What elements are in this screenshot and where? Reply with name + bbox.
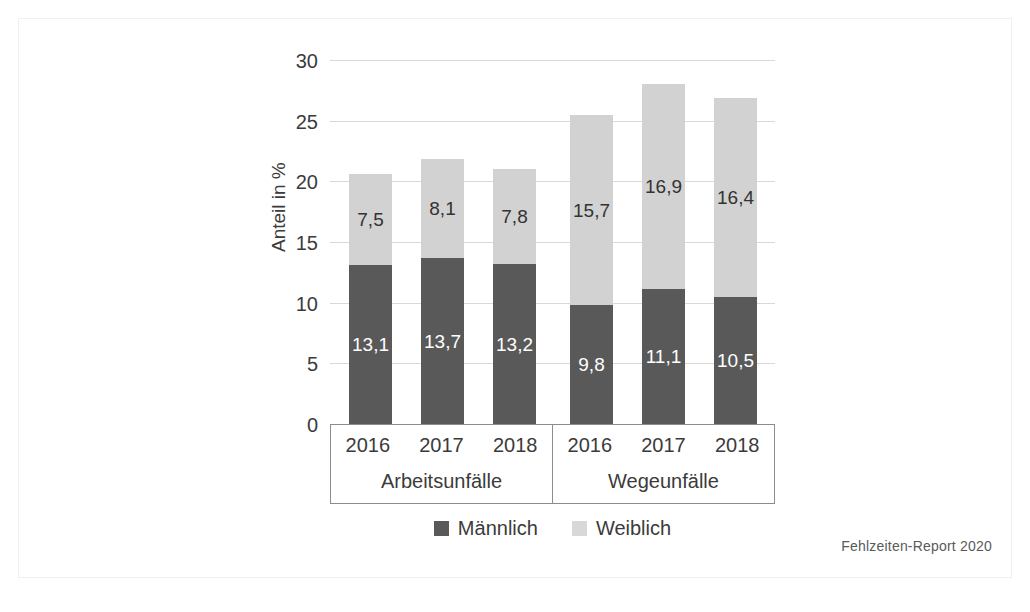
legend-item-weiblich[interactable]: Weiblich	[572, 518, 671, 538]
legend-label: Männlich	[458, 518, 538, 538]
x-tick-label-2018: 2018	[478, 429, 552, 463]
source-note: Fehlzeiten-Report 2020	[841, 538, 992, 554]
bar-segment-female[interactable]: 16,9	[642, 84, 685, 289]
gridline-25	[330, 121, 775, 122]
bar-arbeitsunfaelle-2017[interactable]: 8,1 13,7	[421, 159, 464, 424]
x-tick-label-2018: 2018	[700, 429, 774, 463]
bar-value-label-male: 13,1	[352, 335, 389, 354]
bar-segment-female[interactable]: 8,1	[421, 159, 464, 258]
legend-label: Weiblich	[596, 518, 671, 538]
chart-figure: Anteil in % 30 25 20 15 10 5 0 7,5 13,1 …	[0, 0, 1030, 612]
category-group-arbeitsunfaelle: 2016 2017 2018 Arbeitsunfälle	[331, 425, 552, 503]
bar-value-label-female: 8,1	[429, 199, 455, 218]
bar-segment-male[interactable]: 13,1	[349, 265, 392, 424]
bar-arbeitsunfaelle-2018[interactable]: 7,8 13,2	[493, 169, 536, 424]
bar-segment-male[interactable]: 10,5	[714, 297, 757, 424]
bar-value-label-female: 15,7	[573, 201, 610, 220]
plot-area: 7,5 13,1 8,1 13,7 7,8 13,2	[330, 60, 775, 424]
bar-value-label-female: 16,9	[645, 177, 682, 196]
bar-segment-male[interactable]: 11,1	[642, 289, 685, 424]
legend-item-maennlich[interactable]: Männlich	[434, 518, 538, 538]
x-axis-category-table: 2016 2017 2018 Arbeitsunfälle 2016 2017 …	[330, 424, 775, 504]
bar-value-label-male: 11,1	[646, 347, 682, 366]
gridline-15	[330, 242, 775, 243]
x-tick-label-2017: 2017	[627, 429, 701, 463]
gridline-20	[330, 181, 775, 182]
category-year-row: 2016 2017 2018	[331, 429, 552, 463]
bar-value-label-male: 9,8	[578, 355, 604, 374]
y-tick-label-25: 25	[282, 112, 318, 132]
bar-value-label-female: 7,8	[501, 207, 527, 226]
bar-segment-male[interactable]: 13,2	[493, 264, 536, 424]
category-year-row: 2016 2017 2018	[553, 429, 774, 463]
bar-segment-female[interactable]: 16,4	[714, 98, 757, 297]
bar-segment-female[interactable]: 7,5	[349, 174, 392, 265]
bar-value-label-female: 16,4	[717, 188, 754, 207]
bar-value-label-male: 13,7	[424, 332, 461, 351]
bar-value-label-female: 7,5	[357, 210, 383, 229]
bar-segment-male[interactable]: 13,7	[421, 258, 464, 424]
y-tick-label-10: 10	[282, 294, 318, 314]
bar-arbeitsunfaelle-2016[interactable]: 7,5 13,1	[349, 174, 392, 424]
gridline-5	[330, 363, 775, 364]
category-group-wegeunfaelle: 2016 2017 2018 Wegeunfälle	[552, 425, 774, 503]
gridline-10	[330, 303, 775, 304]
legend-swatch-icon	[434, 521, 449, 536]
bar-wegeunfaelle-2018[interactable]: 16,4 10,5	[714, 98, 757, 424]
y-tick-label-5: 5	[282, 354, 318, 374]
y-axis: Anteil in % 30 25 20 15 10 5 0	[282, 60, 318, 424]
y-tick-label-15: 15	[282, 233, 318, 253]
bar-value-label-male: 13,2	[496, 335, 533, 354]
bar-segment-female[interactable]: 15,7	[570, 115, 613, 305]
bar-value-label-male: 10,5	[717, 351, 754, 370]
y-tick-label-30: 30	[282, 51, 318, 71]
bar-segment-female[interactable]: 7,8	[493, 169, 536, 264]
y-tick-label-0: 0	[282, 415, 318, 435]
gridline-30	[330, 60, 775, 61]
x-tick-label-2017: 2017	[405, 429, 479, 463]
category-group-label: Wegeunfälle	[553, 465, 774, 497]
bar-wegeunfaelle-2016[interactable]: 15,7 9,8	[570, 115, 613, 424]
x-tick-label-2016: 2016	[331, 429, 405, 463]
bar-wegeunfaelle-2017[interactable]: 16,9 11,1	[642, 84, 685, 424]
x-tick-label-2016: 2016	[553, 429, 627, 463]
category-group-label: Arbeitsunfälle	[331, 465, 552, 497]
bar-segment-male[interactable]: 9,8	[570, 305, 613, 424]
y-tick-label-20: 20	[282, 172, 318, 192]
legend-swatch-icon	[572, 521, 587, 536]
chart-legend: Männlich Weiblich	[330, 518, 775, 538]
